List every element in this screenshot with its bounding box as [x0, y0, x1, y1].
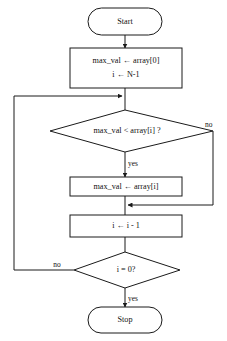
node-init[interactable]: [70, 48, 182, 88]
flowchart-canvas: Start max_val ← array[0] i ← N-1 max_val…: [0, 0, 227, 341]
node-init-label-line2: i ← N-1: [112, 70, 139, 79]
node-compare-label: max_val < array[i] ?: [93, 126, 160, 135]
node-assign-label: max_val ← array[i]: [93, 182, 158, 191]
node-init-label-line1: max_val ← array[0]: [93, 56, 160, 65]
edge-label-testzero-no: no: [53, 260, 61, 269]
node-testzero-label: i = 0?: [117, 265, 136, 274]
node-decrement-label: i ← i - 1: [112, 221, 140, 230]
node-start-label: Start: [117, 17, 133, 26]
node-stop-label: Stop: [117, 315, 132, 324]
flowchart-svg: Start max_val ← array[0] i ← N-1 max_val…: [0, 0, 227, 341]
edge-label-testzero-yes: yes: [128, 294, 138, 303]
edge-label-compare-no: no: [205, 120, 213, 129]
edge-label-compare-yes: yes: [128, 159, 138, 168]
